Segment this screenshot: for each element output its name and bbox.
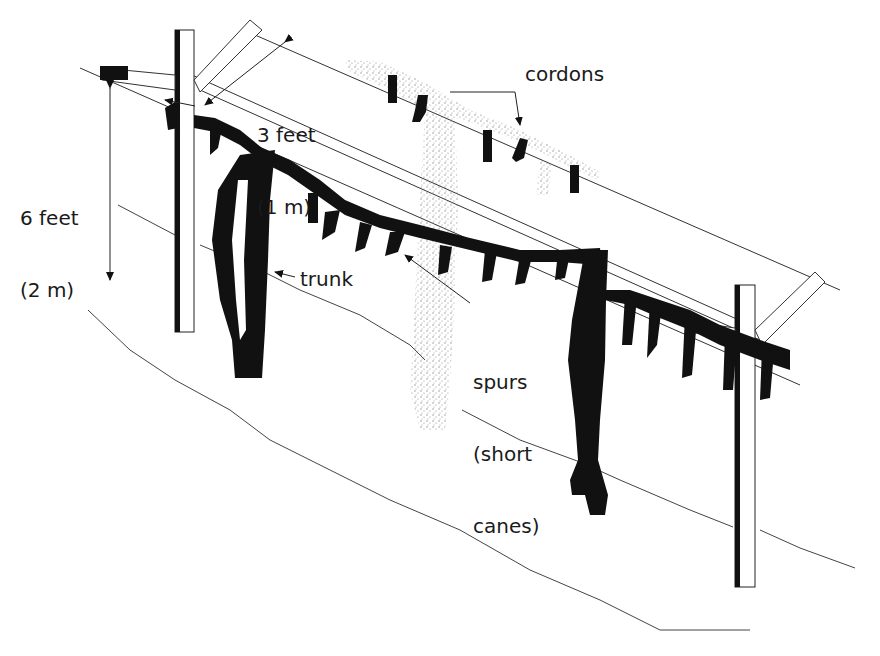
post-left [175,30,194,332]
spurs-label-line2: (short [473,442,539,466]
post-right [735,285,755,587]
cross-arm-left-end [100,66,128,80]
diagram-canvas [0,0,880,656]
spurs-label-line1: spurs [473,370,539,394]
spurs-label-line3: canes) [473,514,539,538]
trunk-label: trunk [300,267,353,291]
height-label-metric: (2 m) [20,278,79,302]
width-label-metric: (1 m) [257,195,316,219]
trellis-diagram: 6 feet (2 m) 3 feet (1 m) cordons trunk … [0,0,880,656]
width-label: 3 feet (1 m) [257,75,316,243]
cordons-label: cordons [525,62,604,86]
height-label: 6 feet (2 m) [20,158,79,326]
height-label-feet: 6 feet [20,206,79,230]
width-label-feet: 3 feet [257,123,316,147]
spurs-label: spurs (short canes) [473,322,539,562]
